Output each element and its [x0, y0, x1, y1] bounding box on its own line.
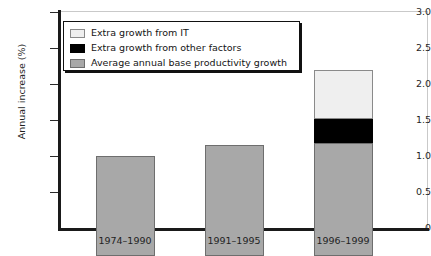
legend-swatch-other-icon: [70, 44, 85, 53]
bar-segment-other[interactable]: [314, 119, 373, 143]
bar-segment-it[interactable]: [314, 70, 373, 119]
stacked-bar-chart: Annual increase (%) 3.0 2.5 2.0 1.5 1.0 …: [0, 0, 431, 256]
legend-label-base: Average annual base productivity growth: [91, 58, 287, 68]
y-axis-title: Annual increase (%): [16, 17, 27, 167]
y-tick-label-1.5: 1.5: [383, 115, 431, 125]
legend-swatch-base-icon: [70, 59, 85, 68]
legend-item-base[interactable]: Average annual base productivity growth: [70, 56, 293, 70]
legend-item-other[interactable]: Extra growth from other factors: [70, 41, 293, 55]
x-tick-label-1991-1995: 1991–1995: [174, 236, 294, 246]
y-tick-label-3.0: 3.0: [383, 7, 431, 17]
legend-swatch-it-icon: [70, 29, 85, 38]
y-tick-label-2.5: 2.5: [383, 43, 431, 53]
chart-legend: Extra growth from IT Extra growth from o…: [63, 21, 300, 71]
y-tick-label-1.0: 1.0: [383, 151, 431, 161]
bar-group-1996-1999[interactable]: [314, 28, 373, 256]
y-tick-label-0.5: 0.5: [383, 187, 431, 197]
x-tick-label-1996-1999: 1996–1999: [283, 236, 403, 246]
legend-label-it: Extra growth from IT: [91, 28, 189, 38]
x-tick-label-1974-1990: 1974–1990: [65, 236, 185, 246]
y-tick-label-2.0: 2.0: [383, 79, 431, 89]
legend-label-other: Extra growth from other factors: [91, 43, 241, 53]
y-axis-line: [58, 10, 61, 231]
legend-item-it[interactable]: Extra growth from IT: [70, 26, 293, 40]
